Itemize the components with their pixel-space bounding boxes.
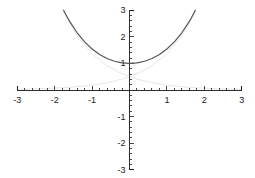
y-tick-label: -3 bbox=[117, 165, 125, 174]
x-tick-label: -1 bbox=[88, 96, 96, 105]
x-tick-label: -2 bbox=[51, 96, 59, 105]
y-tick-label: 3 bbox=[120, 6, 125, 15]
y-tick-label: -1 bbox=[117, 112, 125, 121]
y-tick-label: 1 bbox=[120, 59, 125, 68]
x-tick-label: 3 bbox=[239, 96, 244, 105]
y-tick-label: 2 bbox=[120, 32, 125, 41]
cosh-plot: -3-2-1123-3-2-1123 bbox=[0, 0, 255, 178]
x-tick-label: 1 bbox=[164, 96, 169, 105]
series-e-x-2 bbox=[17, 12, 195, 89]
x-tick-label: 2 bbox=[202, 96, 207, 105]
series-e-x-2 bbox=[64, 12, 242, 89]
axes-group bbox=[17, 10, 241, 170]
plot-canvas bbox=[0, 0, 255, 178]
y-tick-label: -2 bbox=[117, 139, 125, 148]
x-tick-label: -3 bbox=[13, 96, 21, 105]
